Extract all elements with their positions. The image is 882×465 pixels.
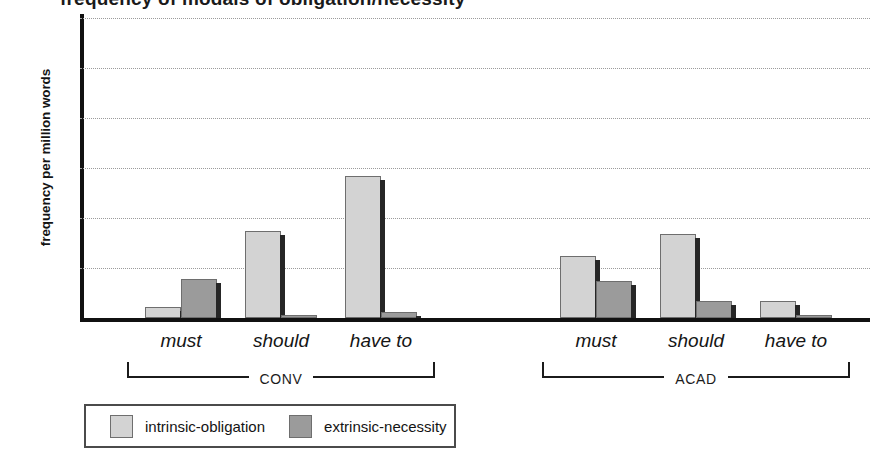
bar-intrinsic-obligation-must-acad bbox=[560, 256, 596, 318]
bar-intrinsic-obligation-should-conv bbox=[245, 231, 281, 318]
category-label-should-conv: should bbox=[253, 330, 309, 352]
legend-swatch-extrinsic-icon bbox=[289, 415, 312, 438]
bar-chart: frequency of modals of obligation/necess… bbox=[0, 0, 882, 465]
bar-extrinsic-necessity-must-acad bbox=[596, 281, 632, 318]
legend-item-extrinsic[interactable]: extrinsic-necessity bbox=[289, 415, 447, 438]
category-label-must-acad: must bbox=[575, 330, 616, 352]
chart-title-fragment: frequency of modals of obligation/necess… bbox=[60, 0, 466, 10]
legend-swatch-intrinsic-icon bbox=[110, 415, 133, 438]
bar-extrinsic-necessity-have-to-acad bbox=[796, 315, 832, 319]
bracket-line-left bbox=[129, 376, 249, 378]
plot-area: 050010001500200025003000 bbox=[80, 18, 870, 318]
bar-shadow bbox=[416, 316, 421, 318]
bar-shadow bbox=[380, 180, 385, 318]
group-bracket-conv: CONV bbox=[127, 362, 435, 378]
legend-item-intrinsic[interactable]: intrinsic-obligation bbox=[110, 415, 265, 438]
legend-label: extrinsic-necessity bbox=[324, 418, 447, 435]
bar-extrinsic-necessity-should-acad bbox=[696, 301, 732, 318]
group-bracket-acad: ACAD bbox=[542, 362, 850, 378]
bar-intrinsic-obligation-have-to-acad bbox=[760, 301, 796, 318]
bracket-line-right bbox=[728, 376, 848, 378]
bar-shadow bbox=[731, 305, 736, 318]
bar-shadow bbox=[280, 235, 285, 318]
x-axis-line bbox=[80, 318, 870, 322]
group-label-acad: ACAD bbox=[668, 371, 723, 387]
bar-shadow bbox=[216, 283, 221, 318]
category-label-should-acad: should bbox=[668, 330, 724, 352]
category-label-have-to-conv: have to bbox=[350, 330, 412, 352]
bar-shadow bbox=[631, 285, 636, 318]
gridline bbox=[80, 168, 870, 169]
gridline bbox=[80, 118, 870, 119]
chart-legend: intrinsic-obligationextrinsic-necessity bbox=[84, 404, 456, 448]
legend-label: intrinsic-obligation bbox=[145, 418, 265, 435]
gridline bbox=[80, 18, 870, 19]
bar-intrinsic-obligation-should-acad bbox=[660, 234, 696, 318]
bar-extrinsic-necessity-have-to-conv bbox=[381, 312, 417, 318]
category-label-have-to-acad: have to bbox=[765, 330, 827, 352]
bar-extrinsic-necessity-should-conv bbox=[281, 315, 317, 318]
bracket-line-right bbox=[313, 376, 433, 378]
bracket-line-left bbox=[544, 376, 664, 378]
bar-intrinsic-obligation-must-conv bbox=[145, 307, 181, 318]
category-label-must-conv: must bbox=[160, 330, 201, 352]
gridline bbox=[80, 68, 870, 69]
gridline bbox=[80, 218, 870, 219]
bar-intrinsic-obligation-have-to-conv bbox=[345, 176, 381, 318]
gridline bbox=[80, 268, 870, 269]
bar-extrinsic-necessity-must-conv bbox=[181, 279, 217, 318]
group-label-conv: CONV bbox=[253, 371, 310, 387]
y-axis-label: frequency per million words bbox=[38, 18, 53, 298]
